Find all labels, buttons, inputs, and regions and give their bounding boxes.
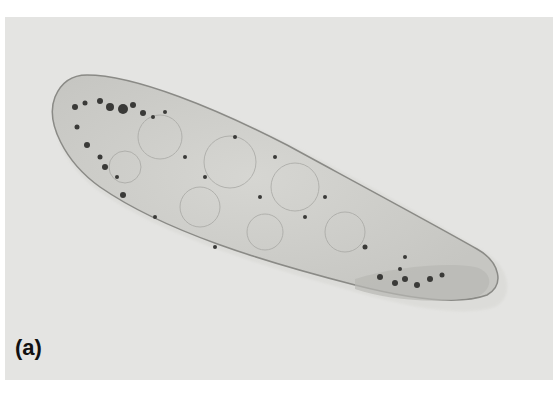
paramecium-image [5, 17, 553, 380]
panel-label: (a) [15, 335, 42, 361]
micrograph-panel: (a) [5, 17, 553, 380]
